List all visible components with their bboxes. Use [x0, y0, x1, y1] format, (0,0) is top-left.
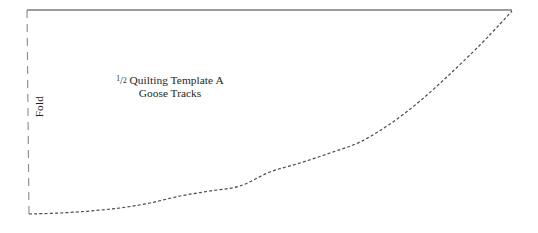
paper-background	[0, 0, 538, 233]
template-title-text: Quilting Template A	[127, 74, 224, 86]
fold-label: Fold	[33, 96, 45, 117]
one-half-fraction: 1/2	[116, 74, 126, 86]
template-caption-line-1: 1/2 Quilting Template A	[63, 74, 277, 87]
diagram-canvas	[0, 0, 538, 233]
template-caption-line-2: Goose Tracks	[63, 87, 277, 100]
quilting-template-figure: 1/2 Quilting Template A Goose Tracks Fol…	[0, 0, 538, 233]
template-caption: 1/2 Quilting Template A Goose Tracks	[63, 74, 277, 100]
